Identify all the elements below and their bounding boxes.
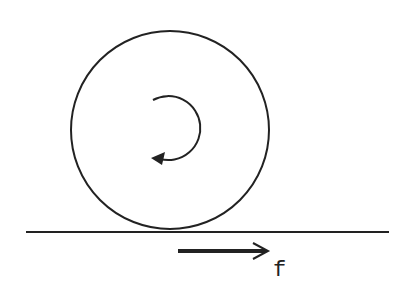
wheel-circle (71, 31, 269, 229)
diagram-canvas: f (0, 0, 413, 293)
force-label: f (273, 258, 286, 283)
force-arrow-icon (178, 243, 268, 259)
rotation-arrow-icon (151, 96, 200, 165)
